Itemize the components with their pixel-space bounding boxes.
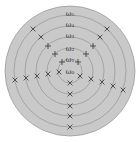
ring-label: ω₄: [66, 21, 75, 29]
ring-label: ω₅: [66, 10, 75, 18]
ring-label: ω₀: [66, 68, 75, 76]
ring-label: ω₁: [66, 56, 75, 64]
ring-label: ω₃: [66, 32, 75, 40]
concentric-circle-diagram: ω₅ω₄ω₃ω₂ω₁ω₀: [0, 0, 137, 142]
ring-label: ω₂: [66, 45, 75, 53]
